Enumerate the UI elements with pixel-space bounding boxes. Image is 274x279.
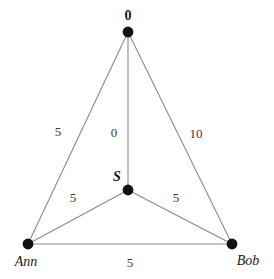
edge-weight-s-ann: 5 <box>70 191 77 204</box>
node-dot-zero <box>123 27 134 38</box>
node-dot-bob <box>227 239 238 250</box>
edge-weight-zero-bob: 10 <box>190 127 203 140</box>
node-dot-ann <box>23 239 34 250</box>
graph-diagram: 0 S Ann Bob 5 0 10 5 5 5 <box>0 0 274 279</box>
edge-weight-ann-bob: 5 <box>127 256 134 269</box>
node-label-s: S <box>113 170 121 184</box>
edge-weight-zero-s: 0 <box>111 126 118 139</box>
edge-zero-bob <box>128 32 232 244</box>
edge-weight-s-bob: 5 <box>173 191 180 204</box>
edge-s-ann <box>28 190 128 244</box>
edge-s-bob <box>128 190 232 244</box>
node-label-zero: 0 <box>125 9 132 23</box>
node-dot-s <box>123 185 134 196</box>
graph-canvas <box>0 0 274 279</box>
edge-weight-zero-ann: 5 <box>55 125 62 138</box>
node-label-ann: Ann <box>15 255 38 269</box>
node-label-bob: Bob <box>237 254 260 268</box>
